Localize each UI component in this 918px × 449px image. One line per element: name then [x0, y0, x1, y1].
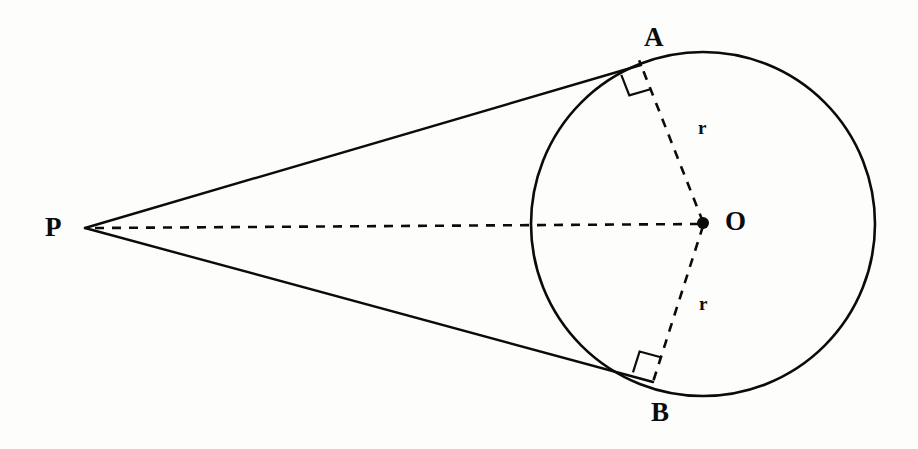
label-radius-lower: r: [699, 294, 707, 313]
center-point-dot: [697, 217, 709, 229]
label-point-a: A: [644, 24, 664, 51]
right-angle-marker-b: [633, 352, 661, 373]
label-radius-upper: r: [698, 118, 706, 137]
tangent-line-pb: [85, 228, 653, 382]
dashed-radius-oa: [639, 60, 703, 222]
figure-canvas: [0, 0, 918, 449]
dashed-radius-ob: [652, 226, 704, 387]
label-center-o: O: [725, 208, 746, 235]
geometry-figure: A B O P r r: [0, 0, 918, 449]
tangent-line-pa: [85, 65, 641, 228]
label-external-point-p: P: [45, 214, 62, 241]
label-point-b: B: [651, 399, 669, 426]
dashed-line-po: [95, 224, 700, 228]
